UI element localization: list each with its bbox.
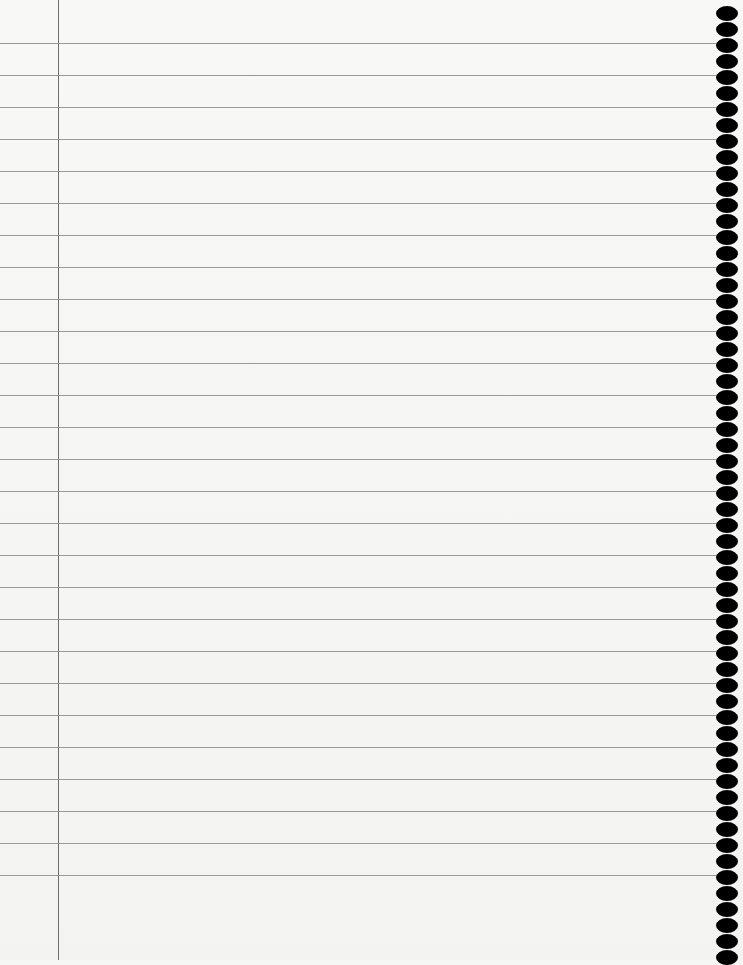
binding-hole-icon [716,134,738,149]
ruled-line [0,715,716,716]
binding-hole-icon [716,918,738,933]
ruled-line [0,107,716,108]
binding-hole-icon [716,566,738,581]
ruled-line [0,747,716,748]
binding-hole-icon [716,486,738,501]
binding-hole-icon [716,54,738,69]
ruled-line [0,203,716,204]
binding-hole-icon [716,358,738,373]
binding-hole-icon [716,6,738,21]
binding-hole-icon [716,86,738,101]
binding-hole-icon [716,662,738,677]
binding-hole-icon [716,422,738,437]
binding-hole-icon [716,310,738,325]
ruled-line [0,619,716,620]
binding-hole-icon [716,598,738,613]
binding-hole-icon [716,518,738,533]
ruled-line [0,555,716,556]
binding-hole-icon [716,502,738,517]
binding-hole-icon [716,710,738,725]
ruled-line [0,235,716,236]
binding-hole-icon [716,38,738,53]
binding-hole-icon [716,182,738,197]
binding-hole-icon [716,742,738,757]
binding-hole-icon [716,342,738,357]
binding-hole-icon [716,902,738,917]
ruled-line [0,363,716,364]
binding-hole-icon [716,166,738,181]
ruled-line [0,139,716,140]
ruled-line [0,779,716,780]
binding-hole-icon [716,406,738,421]
binding-hole-icon [716,438,738,453]
margin-line [58,0,59,960]
binding-hole-icon [716,550,738,565]
binding-hole-icon [716,118,738,133]
ruled-line [0,459,716,460]
binding-hole-icon [716,630,738,645]
binding-hole-icon [716,870,738,885]
binding-hole-icon [716,646,738,661]
binding-hole-icon [716,470,738,485]
ruled-line [0,875,716,876]
binding-hole-icon [716,854,738,869]
binding-hole-icon [716,374,738,389]
binding-hole-icon [716,454,738,469]
binding-hole-icon [716,934,738,949]
ruled-line [0,331,716,332]
binding-hole-icon [716,822,738,837]
ruled-line [0,427,716,428]
binding-hole-icon [716,230,738,245]
binding-hole-icon [716,70,738,85]
binding-hole-icon [716,790,738,805]
binding-hole-icon [716,102,738,117]
binding-hole-icon [716,694,738,709]
binding-hole-icon [716,614,738,629]
binding-hole-icon [716,150,738,165]
ruled-line [0,523,716,524]
binding-hole-icon [716,678,738,693]
binding-hole-icon [716,582,738,597]
binding-hole-icon [716,214,738,229]
binding-hole-icon [716,294,738,309]
binding-hole-icon [716,726,738,741]
binding-hole-icon [716,886,738,901]
binding-hole-icon [716,326,738,341]
ruled-line [0,267,716,268]
binding-hole-icon [716,838,738,853]
ruled-line [0,811,716,812]
ruled-line [0,651,716,652]
ruled-line [0,75,716,76]
ruled-line [0,587,716,588]
binding-hole-icon [716,806,738,821]
binding-hole-icon [716,198,738,213]
ruled-line [0,43,716,44]
ruled-line [0,843,716,844]
binding-hole-icon [716,774,738,789]
binding-hole-icon [716,22,738,37]
ruled-line [0,171,716,172]
binding-hole-icon [716,262,738,277]
ruled-line [0,491,716,492]
binding-hole-icon [716,390,738,405]
binding-hole-icon [716,534,738,549]
ruled-line [0,683,716,684]
ruled-line [0,395,716,396]
binding-hole-icon [716,278,738,293]
binding-hole-icon [716,246,738,261]
ruled-line [0,299,716,300]
binding-hole-icon [716,758,738,773]
binding-hole-icon [716,950,738,965]
